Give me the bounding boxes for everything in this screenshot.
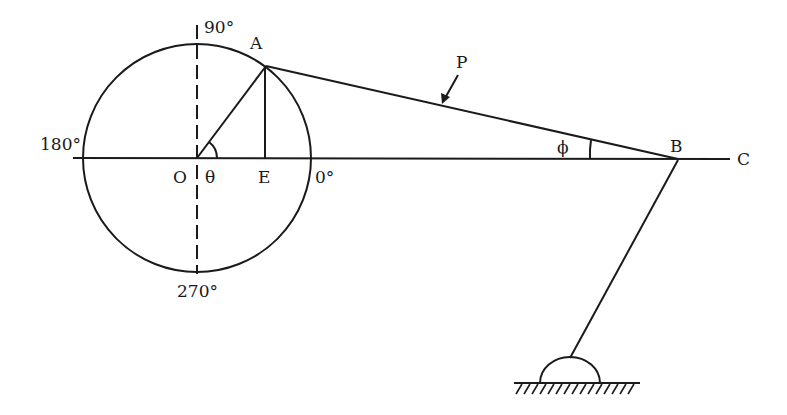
label-point-O: O — [173, 167, 187, 187]
connecting-rod-AB — [266, 66, 678, 159]
theta-angle-arc — [209, 142, 217, 158]
ground-pivot — [540, 357, 600, 383]
label-point-A: A — [249, 33, 263, 53]
label-0-degrees: 0° — [315, 167, 334, 187]
force-P-arrowhead — [441, 93, 450, 104]
label-180-degrees: 180° — [40, 134, 81, 154]
label-theta: θ — [205, 167, 215, 187]
phi-angle-arc — [590, 140, 591, 159]
label-point-E: E — [258, 167, 270, 187]
link-B-to-pivot — [570, 160, 678, 358]
label-270-degrees: 270° — [177, 281, 218, 301]
label-force-P: P — [456, 52, 467, 72]
label-point-B: B — [670, 136, 683, 156]
ground-hatching — [516, 384, 634, 394]
label-90-degrees: 90° — [204, 17, 234, 37]
label-point-C: C — [737, 149, 750, 169]
crank-OA — [197, 66, 266, 158]
horizontal-axis-line — [73, 158, 730, 159]
mechanism-diagram: 90° A 180° O θ E 0° 270° P ϕ B C — [0, 0, 787, 415]
label-phi: ϕ — [557, 137, 569, 157]
